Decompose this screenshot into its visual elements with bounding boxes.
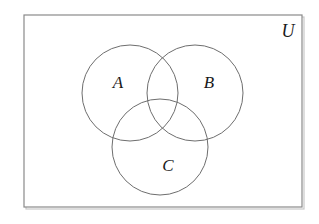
set-label-b: B [204,73,215,92]
set-label-c: C [162,156,174,175]
universe-label: U [282,21,296,41]
set-label-a: A [112,73,124,92]
venn-diagram-figure: A B C U [0,0,319,224]
venn-diagram-canvas: A B C U [0,0,319,224]
universe-rectangle [24,15,302,207]
